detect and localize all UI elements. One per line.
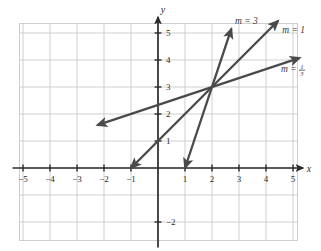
chart-background — [0, 0, 321, 251]
coordinate-plane-chart: −5−4−3−2−11234512345−2 m = 3m = 1m =13 x… — [0, 0, 321, 251]
slope-label: m = — [281, 64, 297, 74]
y-tick-label: 4 — [166, 55, 171, 65]
y-tick-label: 1 — [166, 136, 171, 146]
x-tick-label: 1 — [183, 174, 188, 184]
x-tick-label: −4 — [45, 174, 55, 184]
y-tick-label: −2 — [166, 217, 176, 227]
x-tick-label: 4 — [264, 174, 269, 184]
x-axis-name: x — [306, 163, 312, 174]
x-tick-label: 3 — [237, 174, 242, 184]
graph-canvas: −5−4−3−2−11234512345−2 m = 3m = 1m =13 x… — [0, 0, 321, 251]
slope-fraction-denominator: 3 — [299, 70, 304, 77]
y-tick-label: 5 — [166, 28, 171, 38]
y-tick-label: 2 — [166, 109, 171, 119]
slope-label: m = 1 — [282, 25, 305, 35]
x-tick-label: −5 — [18, 174, 28, 184]
x-tick-label: −3 — [72, 174, 82, 184]
slope-label: m = 3 — [235, 16, 258, 26]
x-tick-label: −1 — [126, 174, 136, 184]
y-tick-label: 3 — [166, 82, 171, 92]
x-tick-label: 2 — [210, 174, 215, 184]
x-tick-label: −2 — [99, 174, 109, 184]
y-axis-name: y — [160, 4, 166, 15]
slope-fraction-numerator: 1 — [300, 63, 303, 70]
x-tick-label: 5 — [291, 174, 296, 184]
